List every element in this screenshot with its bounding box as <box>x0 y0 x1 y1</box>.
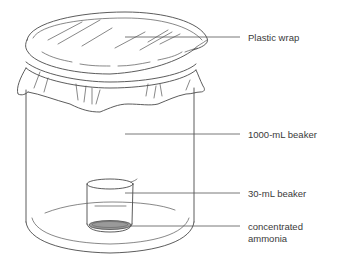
label-plastic-wrap: Plastic wrap <box>248 32 299 43</box>
label-large-beaker: 1000-mL beaker <box>248 129 317 140</box>
label-ammonia-line1: concentrated <box>248 221 303 232</box>
label-small-beaker: 30-mL beaker <box>248 188 306 199</box>
plastic-wrap <box>17 12 207 112</box>
label-ammonia-line2: ammonia <box>248 233 287 244</box>
ammonia-liquid <box>89 221 131 230</box>
leader-lines <box>125 37 240 226</box>
